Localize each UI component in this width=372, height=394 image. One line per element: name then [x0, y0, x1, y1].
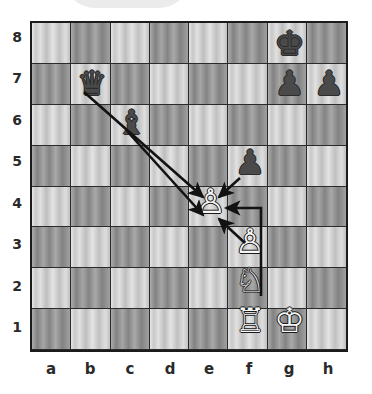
- square-f7[interactable]: [228, 64, 267, 105]
- file-label-a: a: [31, 360, 71, 378]
- square-h8[interactable]: [307, 23, 346, 64]
- square-d5[interactable]: [150, 146, 189, 187]
- square-c6[interactable]: [111, 105, 150, 146]
- file-label-b: b: [70, 360, 110, 378]
- square-e8[interactable]: [189, 23, 228, 64]
- square-d1[interactable]: [150, 309, 189, 350]
- file-label-f: f: [229, 360, 269, 378]
- square-c7[interactable]: [111, 64, 150, 105]
- file-label-h: h: [308, 360, 348, 378]
- square-a6[interactable]: [32, 105, 71, 146]
- chess-diagram: 8 7 6 5 4 3 2 1 a b c d e f g h ♚♛♟♟♝♟♙♙…: [0, 0, 372, 394]
- page-watermark: [62, 0, 192, 8]
- square-b8[interactable]: [71, 23, 110, 64]
- square-g6[interactable]: [268, 105, 307, 146]
- square-f5[interactable]: [228, 146, 267, 187]
- square-b2[interactable]: [71, 268, 110, 309]
- square-e1[interactable]: [189, 309, 228, 350]
- square-f3[interactable]: [228, 227, 267, 268]
- square-b1[interactable]: [71, 309, 110, 350]
- square-c4[interactable]: [111, 187, 150, 228]
- square-f8[interactable]: [228, 23, 267, 64]
- square-a4[interactable]: [32, 187, 71, 228]
- square-f4[interactable]: [228, 187, 267, 228]
- file-label-d: d: [150, 360, 190, 378]
- square-c8[interactable]: [111, 23, 150, 64]
- rank-label-6: 6: [8, 112, 26, 128]
- rank-label-1: 1: [8, 319, 26, 335]
- file-label-g: g: [269, 360, 309, 378]
- square-e5[interactable]: [189, 146, 228, 187]
- rank-label-4: 4: [8, 195, 26, 211]
- square-f2[interactable]: [228, 268, 267, 309]
- square-d2[interactable]: [150, 268, 189, 309]
- rank-label-8: 8: [8, 29, 26, 45]
- square-c1[interactable]: [111, 309, 150, 350]
- square-e2[interactable]: [189, 268, 228, 309]
- square-c5[interactable]: [111, 146, 150, 187]
- square-b3[interactable]: [71, 227, 110, 268]
- square-e6[interactable]: [189, 105, 228, 146]
- square-a5[interactable]: [32, 146, 71, 187]
- square-h2[interactable]: [307, 268, 346, 309]
- square-d7[interactable]: [150, 64, 189, 105]
- square-h7[interactable]: [307, 64, 346, 105]
- rank-label-2: 2: [8, 278, 26, 294]
- square-g3[interactable]: [268, 227, 307, 268]
- square-h1[interactable]: [307, 309, 346, 350]
- square-g7[interactable]: [268, 64, 307, 105]
- square-b6[interactable]: [71, 105, 110, 146]
- square-g4[interactable]: [268, 187, 307, 228]
- file-label-e: e: [189, 360, 229, 378]
- square-h5[interactable]: [307, 146, 346, 187]
- square-a7[interactable]: [32, 64, 71, 105]
- square-c2[interactable]: [111, 268, 150, 309]
- square-e7[interactable]: [189, 64, 228, 105]
- square-g1[interactable]: [268, 309, 307, 350]
- square-e4[interactable]: [189, 187, 228, 228]
- square-a8[interactable]: [32, 23, 71, 64]
- square-c3[interactable]: [111, 227, 150, 268]
- square-b7[interactable]: [71, 64, 110, 105]
- square-d4[interactable]: [150, 187, 189, 228]
- square-e3[interactable]: [189, 227, 228, 268]
- rank-label-3: 3: [8, 236, 26, 252]
- square-f1[interactable]: [228, 309, 267, 350]
- square-b5[interactable]: [71, 146, 110, 187]
- square-h3[interactable]: [307, 227, 346, 268]
- board-squares: [32, 23, 346, 350]
- square-a2[interactable]: [32, 268, 71, 309]
- square-d3[interactable]: [150, 227, 189, 268]
- square-b4[interactable]: [71, 187, 110, 228]
- square-g8[interactable]: [268, 23, 307, 64]
- square-d8[interactable]: [150, 23, 189, 64]
- rank-label-5: 5: [8, 153, 26, 169]
- rank-label-7: 7: [8, 70, 26, 86]
- square-a1[interactable]: [32, 309, 71, 350]
- square-g5[interactable]: [268, 146, 307, 187]
- square-f6[interactable]: [228, 105, 267, 146]
- chess-board[interactable]: ♚♛♟♟♝♟♙♙♘♖♔: [30, 21, 348, 352]
- square-h6[interactable]: [307, 105, 346, 146]
- square-g2[interactable]: [268, 268, 307, 309]
- file-label-c: c: [110, 360, 150, 378]
- square-d6[interactable]: [150, 105, 189, 146]
- square-h4[interactable]: [307, 187, 346, 228]
- square-a3[interactable]: [32, 227, 71, 268]
